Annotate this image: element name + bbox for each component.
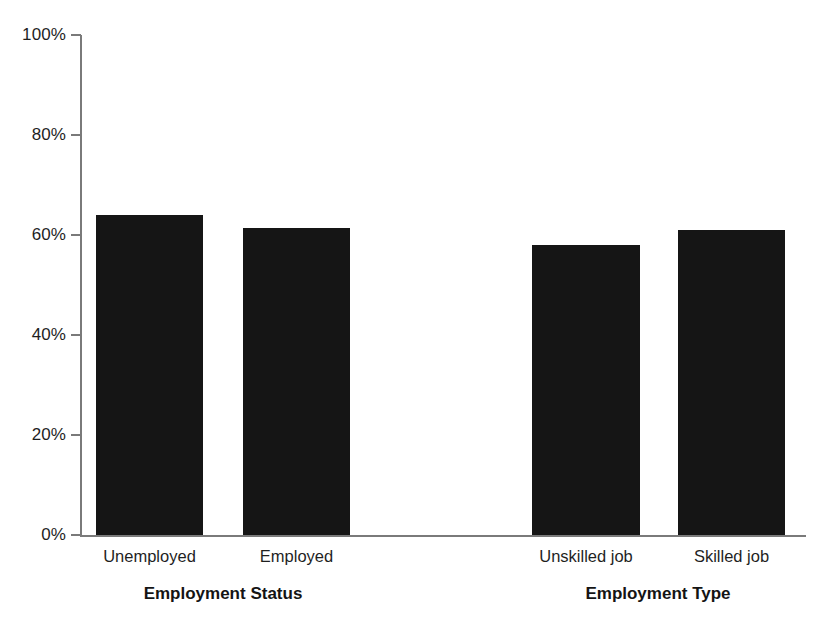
y-axis-tick-label-text: 40% [4,326,66,343]
y-axis-tick-label: 40% [0,326,66,343]
y-axis-tick-label: 100% [0,26,66,43]
y-axis-tick-label: 60% [0,226,66,243]
x-axis-line [80,535,806,537]
y-axis-line [80,35,82,536]
y-axis-tick [71,534,81,536]
y-axis-tick-label-text: 0% [4,526,66,543]
y-axis-tick [71,34,81,36]
bar [532,245,640,535]
y-axis-tick [71,134,81,136]
bar [678,230,785,535]
y-axis-tick-label-text: 60% [4,226,66,243]
bar [243,228,350,536]
y-axis-tick [71,434,81,436]
x-axis-category-label: Skilled job [642,546,822,566]
y-axis-tick-label-text: 80% [4,126,66,143]
y-axis-tick [71,334,81,336]
plot-area: 100%80%60%40%20%0% UnemployedEmployedUns… [0,0,823,628]
bar [96,215,203,535]
y-axis-tick-label-text: 100% [4,26,66,43]
y-axis-tick-label: 80% [0,126,66,143]
y-axis-tick-label: 0% [0,526,66,543]
x-axis-group-title: Employment Status [73,583,373,604]
bar-chart: 100%80%60%40%20%0% UnemployedEmployedUns… [0,0,823,628]
y-axis-tick [71,234,81,236]
y-axis-tick-label: 20% [0,426,66,443]
y-axis-tick-label-text: 20% [4,426,66,443]
x-axis-group-title: Employment Type [508,583,808,604]
x-axis-category-label: Employed [207,546,387,566]
